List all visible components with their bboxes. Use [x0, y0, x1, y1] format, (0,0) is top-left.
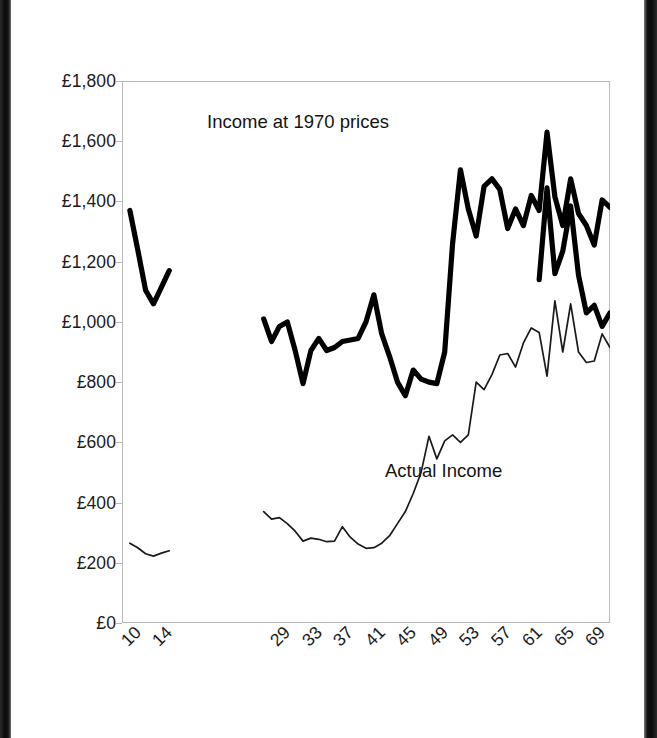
- scan-edge-right: [644, 0, 657, 738]
- x-tick-label: 49: [424, 622, 453, 651]
- x-tick-label: 69: [581, 622, 610, 651]
- x-tick-label: 10: [117, 622, 146, 651]
- line-chart-figure: £0£200£400£600£800£1,000£1,200£1,400£1,6…: [11, 0, 644, 738]
- x-tick-label: 61: [518, 622, 547, 651]
- x-tick-label: 14: [148, 622, 177, 651]
- scan-edge-left: [0, 0, 11, 738]
- x-tick-label: 65: [550, 622, 579, 651]
- x-tick-label: 45: [392, 622, 421, 651]
- x-tick-label: 37: [329, 622, 358, 651]
- x-axis: 10142933374145495357616569: [11, 0, 644, 738]
- x-tick-label: 57: [487, 622, 516, 651]
- x-tick-label: 41: [361, 622, 390, 651]
- x-tick-label: 53: [455, 622, 484, 651]
- x-tick-label: 33: [298, 622, 327, 651]
- x-tick-label: 29: [266, 622, 295, 651]
- page: £0£200£400£600£800£1,000£1,200£1,400£1,6…: [11, 0, 644, 738]
